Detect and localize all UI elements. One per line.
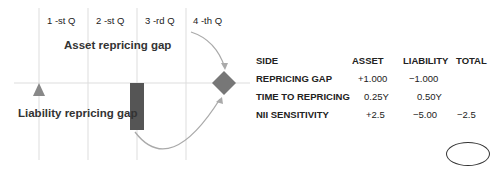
quarter-label: 2 -st Q [96,15,125,26]
timeline-diagram [0,0,503,175]
asset-gap-label: Asset repricing gap [64,39,171,51]
quarter-label: 3 -rd Q [145,15,175,26]
liability-gap-label: Liability repricing gap [18,107,138,119]
quarter-label: 4 -th Q [193,15,222,26]
quarter-label: 1 -st Q [47,15,76,26]
total-highlight-circle [446,142,490,166]
liability-triangle-marker [33,83,45,96]
asset-diamond-marker [212,71,236,95]
